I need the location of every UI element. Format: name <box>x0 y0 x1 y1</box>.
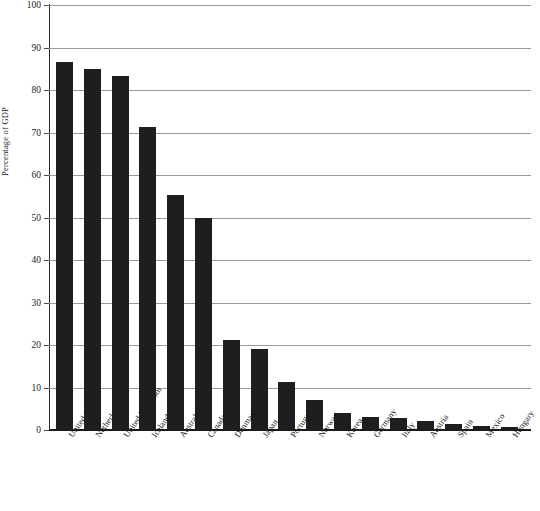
y-tick-label-30: 30 <box>8 298 41 308</box>
y-tick-label-50: 50 <box>8 213 41 223</box>
gridline-90 <box>49 48 531 49</box>
y-tick-label-20: 20 <box>8 340 41 350</box>
bar <box>56 62 73 430</box>
y-axis-title: Percentage of GDP <box>0 16 14 176</box>
gridline-100 <box>49 5 531 6</box>
y-tick-label-0: 0 <box>8 425 41 435</box>
bar <box>195 218 212 431</box>
y-tick-mark-20 <box>44 345 49 346</box>
bar <box>112 76 129 430</box>
bar <box>84 69 101 430</box>
y-tick-label-80: 80 <box>8 85 41 95</box>
y-tick-label-40: 40 <box>8 255 41 265</box>
y-tick-mark-30 <box>44 303 49 304</box>
y-tick-mark-100 <box>44 5 49 6</box>
y-tick-mark-80 <box>44 90 49 91</box>
y-tick-label-60: 60 <box>8 170 41 180</box>
bar <box>278 382 295 430</box>
y-tick-label-10: 10 <box>8 383 41 393</box>
y-tick-label-100: 100 <box>8 0 41 10</box>
y-tick-mark-50 <box>44 218 49 219</box>
y-tick-mark-40 <box>44 260 49 261</box>
y-tick-label-70: 70 <box>8 128 41 138</box>
y-tick-mark-90 <box>44 48 49 49</box>
bar-chart: Percentage of GDP 0102030405060708090100… <box>0 0 540 511</box>
y-tick-mark-10 <box>44 388 49 389</box>
y-tick-mark-0 <box>44 430 49 431</box>
y-tick-mark-70 <box>44 133 49 134</box>
y-tick-label-90: 90 <box>8 43 41 53</box>
y-tick-mark-60 <box>44 175 49 176</box>
bar <box>167 195 184 430</box>
